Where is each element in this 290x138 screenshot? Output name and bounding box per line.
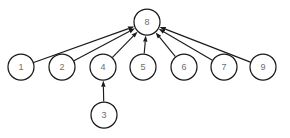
diagram-canvas: 123456789 (0, 0, 290, 138)
graph-node-6[interactable]: 6 (171, 54, 197, 80)
edge-line (160, 37, 176, 56)
graph-node-5[interactable]: 5 (130, 54, 156, 80)
arrowhead-icon (143, 35, 147, 41)
edge-4-to-8 (112, 32, 137, 58)
node-label: 3 (101, 110, 106, 120)
graph-node-7[interactable]: 7 (211, 54, 237, 80)
graph-node-3[interactable]: 3 (91, 102, 117, 128)
node-label: 8 (144, 17, 149, 27)
edge-3-to-4 (101, 81, 105, 102)
graph-node-8[interactable]: 8 (134, 9, 160, 35)
arrowhead-icon (101, 81, 105, 87)
edge-1-to-8 (34, 27, 135, 63)
graph-node-2[interactable]: 2 (49, 54, 75, 80)
graph-node-4[interactable]: 4 (90, 54, 116, 80)
node-label: 7 (221, 62, 226, 72)
graph-node-1[interactable]: 1 (8, 54, 34, 80)
node-label: 4 (100, 62, 105, 72)
node-label: 6 (181, 62, 186, 72)
edge-line (144, 42, 145, 54)
node-label: 1 (18, 62, 23, 72)
edge-6-to-8 (156, 32, 176, 56)
edge-9-to-8 (160, 27, 251, 62)
node-label: 2 (59, 62, 64, 72)
directed-graph: 123456789 (0, 0, 290, 138)
node-label: 9 (260, 62, 265, 72)
graph-node-9[interactable]: 9 (250, 54, 276, 80)
edge-5-to-8 (143, 35, 147, 53)
node-label: 5 (140, 62, 145, 72)
nodes-layer: 123456789 (8, 9, 276, 128)
